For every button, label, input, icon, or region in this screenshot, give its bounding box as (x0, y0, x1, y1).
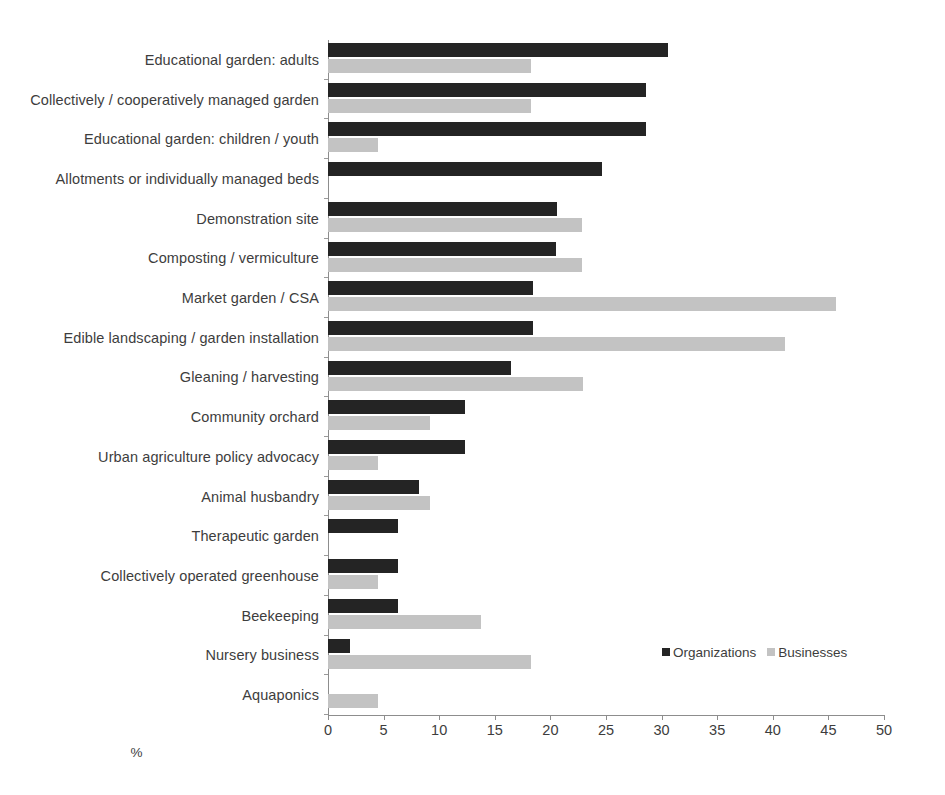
category-label: Educational garden: adults (145, 52, 319, 68)
bar-businesses (328, 138, 378, 152)
bar-organizations (328, 83, 646, 97)
x-axis-tick-label: 5 (380, 722, 388, 738)
legend-swatch-businesses-icon (767, 648, 775, 656)
x-axis-tick (606, 715, 607, 720)
bar-businesses (328, 496, 430, 510)
bar-organizations (328, 281, 533, 295)
bar-group (328, 477, 884, 517)
bar-group (328, 40, 884, 80)
category-row: Community orchard (328, 397, 884, 437)
bar-businesses (328, 416, 430, 430)
category-row: Market garden / CSA (328, 278, 884, 318)
legend-entry-businesses: Businesses (767, 645, 847, 660)
bar-organizations (328, 321, 533, 335)
category-label: Gleaning / harvesting (180, 369, 319, 385)
x-axis-title-text: % (130, 745, 142, 760)
x-axis-tick (884, 715, 885, 720)
x-axis-tick-label: 40 (765, 722, 781, 738)
category-row: Edible landscaping / garden installation (328, 318, 884, 358)
bar-group (328, 358, 884, 398)
bar-group (328, 596, 884, 636)
category-label: Collectively operated greenhouse (101, 568, 319, 584)
bar-group (328, 278, 884, 318)
bar-organizations (328, 480, 419, 494)
bar-businesses (328, 297, 836, 311)
bar-organizations (328, 599, 398, 613)
bar-group (328, 675, 884, 715)
bar-businesses (328, 575, 378, 589)
category-label: Animal husbandry (201, 489, 319, 505)
category-label: Demonstration site (196, 211, 319, 227)
plot-area: Educational garden: adultsCollectively /… (328, 40, 884, 715)
bar-group (328, 397, 884, 437)
category-row: Allotments or individually managed beds (328, 159, 884, 199)
x-axis-tick-label: 25 (598, 722, 614, 738)
category-label: Urban agriculture policy advocacy (98, 449, 319, 465)
category-row: Collectively / cooperatively managed gar… (328, 80, 884, 120)
category-row: Animal husbandry (328, 477, 884, 517)
bar-group (328, 318, 884, 358)
category-row: Educational garden: children / youth (328, 119, 884, 159)
category-label: Edible landscaping / garden installation (63, 330, 319, 346)
category-row: Composting / vermiculture (328, 239, 884, 279)
category-row: Beekeeping (328, 596, 884, 636)
legend-swatch-organizations-icon (662, 648, 670, 656)
x-axis-tick-label: 30 (654, 722, 670, 738)
category-label: Allotments or individually managed beds (56, 171, 319, 187)
bar-organizations (328, 43, 668, 57)
category-label: Beekeeping (241, 608, 319, 624)
category-label: Market garden / CSA (182, 290, 319, 306)
bar-group (328, 556, 884, 596)
bar-group (328, 80, 884, 120)
bar-organizations (328, 361, 511, 375)
category-row: Demonstration site (328, 199, 884, 239)
bar-organizations (328, 202, 557, 216)
bar-businesses (328, 615, 481, 629)
bar-group (328, 239, 884, 279)
bar-organizations (328, 559, 398, 573)
bar-organizations (328, 122, 646, 136)
x-axis-tick (662, 715, 663, 720)
category-label: Educational garden: children / youth (84, 131, 319, 147)
bar-businesses (328, 694, 378, 708)
bar-businesses (328, 377, 583, 391)
bar-businesses (328, 337, 785, 351)
x-axis-tick (717, 715, 718, 720)
x-axis-tick (828, 715, 829, 720)
bar-organizations (328, 400, 465, 414)
x-axis-tick-label: 35 (709, 722, 725, 738)
bar-organizations (328, 242, 556, 256)
bar-businesses (328, 59, 531, 73)
category-label: Community orchard (191, 409, 319, 425)
x-axis-tick (439, 715, 440, 720)
category-row: Urban agriculture policy advocacy (328, 437, 884, 477)
category-label: Composting / vermiculture (148, 250, 319, 266)
x-axis-tick (384, 715, 385, 720)
x-axis-tick-label: 45 (820, 722, 836, 738)
x-axis-tick (328, 715, 329, 720)
bar-businesses (328, 258, 582, 272)
legend-entry-organizations: Organizations (662, 645, 756, 660)
bar-businesses (328, 99, 531, 113)
category-row: Educational garden: adults (328, 40, 884, 80)
bar-chart: Educational garden: adultsCollectively /… (0, 0, 945, 795)
bar-group (328, 119, 884, 159)
category-row: Collectively operated greenhouse (328, 556, 884, 596)
bar-group (328, 437, 884, 477)
bar-organizations (328, 440, 465, 454)
legend-label-organizations: Organizations (673, 645, 756, 660)
x-axis-tick-label: 20 (542, 722, 558, 738)
x-axis-tick-label: 15 (487, 722, 503, 738)
bar-businesses (328, 456, 378, 470)
bar-organizations (328, 162, 602, 176)
x-axis-title: % (0, 745, 945, 760)
x-axis-tick (773, 715, 774, 720)
x-axis-tick-label: 10 (431, 722, 447, 738)
x-axis-tick-label: 50 (876, 722, 892, 738)
legend-label-businesses: Businesses (778, 645, 847, 660)
x-axis-tick (495, 715, 496, 720)
category-label: Therapeutic garden (191, 528, 319, 544)
x-axis-tick (550, 715, 551, 720)
bar-organizations (328, 519, 398, 533)
bar-organizations (328, 639, 350, 653)
